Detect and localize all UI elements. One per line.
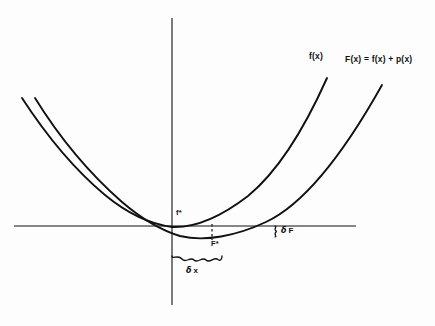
curve-label-f: f(x) — [309, 52, 323, 61]
annotation-delta-F-text: F — [289, 226, 294, 235]
delta-symbol-icon-2: δ — [186, 266, 192, 275]
curve-F — [35, 85, 382, 238]
annotation-F-star: F* — [211, 240, 219, 248]
curve-label-F: F(x) = f(x) + p(x) — [345, 55, 412, 64]
figure-canvas: f(x) F(x) = f(x) + p(x) f* F* δ F δ x — [0, 0, 435, 326]
curve-f — [22, 78, 327, 227]
annotation-delta-x-text: x — [194, 266, 199, 275]
delta-F-brace — [275, 226, 277, 237]
annotation-f-star: f* — [176, 209, 182, 217]
annotation-delta-x: δ x — [186, 267, 198, 275]
delta-symbol-icon: δ — [281, 226, 287, 235]
delta-x-brace — [172, 256, 222, 261]
annotation-delta-F: δ F — [281, 227, 294, 235]
diagram-svg — [0, 0, 435, 326]
